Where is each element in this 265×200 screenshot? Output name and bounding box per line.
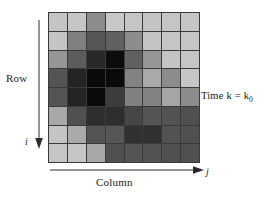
time-annotation: Time k = k0 bbox=[201, 90, 253, 104]
row-direction-arrow bbox=[33, 20, 45, 150]
pixel-cell bbox=[143, 51, 162, 70]
pixel-cell bbox=[49, 107, 68, 126]
pixel-cell bbox=[49, 126, 68, 145]
pixel-cell bbox=[125, 107, 144, 126]
column-direction-arrow bbox=[50, 164, 205, 176]
pixel-cell bbox=[162, 13, 181, 32]
pixel-cell bbox=[181, 88, 200, 107]
pixel-cell bbox=[49, 144, 68, 163]
pixel-cell bbox=[68, 107, 87, 126]
pixel-cell bbox=[49, 32, 68, 51]
row-index-symbol: i bbox=[25, 136, 28, 147]
pixel-cell bbox=[143, 144, 162, 163]
pixel-cell bbox=[181, 107, 200, 126]
pixel-cell bbox=[49, 51, 68, 70]
pixel-cell bbox=[87, 144, 106, 163]
pixel-cell bbox=[87, 32, 106, 51]
pixel-cell bbox=[125, 13, 144, 32]
pixel-cell bbox=[125, 69, 144, 88]
pixel-cell bbox=[49, 13, 68, 32]
pixel-cell bbox=[106, 107, 125, 126]
pixel-cell bbox=[106, 144, 125, 163]
pixel-cell bbox=[106, 88, 125, 107]
pixel-cell bbox=[162, 32, 181, 51]
pixel-cell bbox=[106, 32, 125, 51]
pixel-cell bbox=[125, 32, 144, 51]
pixel-cell bbox=[143, 88, 162, 107]
pixel-cell bbox=[125, 144, 144, 163]
pixel-cell bbox=[68, 69, 87, 88]
pixel-cell bbox=[143, 69, 162, 88]
pixel-cell bbox=[87, 13, 106, 32]
pixel-cell bbox=[125, 51, 144, 70]
pixel-cell bbox=[143, 126, 162, 145]
pixel-cell bbox=[68, 32, 87, 51]
pixel-cell bbox=[181, 126, 200, 145]
pixel-grid bbox=[48, 12, 200, 163]
column-axis-label: Column bbox=[96, 176, 133, 188]
pixel-cell bbox=[68, 13, 87, 32]
pixel-cell bbox=[87, 88, 106, 107]
pixel-cell bbox=[181, 144, 200, 163]
pixel-cell bbox=[143, 13, 162, 32]
pixel-cell bbox=[49, 69, 68, 88]
pixel-cell bbox=[106, 51, 125, 70]
image-grid-figure: Row i Column j Time k = k0 bbox=[0, 0, 265, 200]
pixel-cell bbox=[162, 107, 181, 126]
pixel-cell bbox=[87, 107, 106, 126]
pixel-cell bbox=[87, 69, 106, 88]
pixel-cell bbox=[49, 88, 68, 107]
pixel-cell bbox=[162, 69, 181, 88]
pixel-cell bbox=[106, 69, 125, 88]
pixel-cell bbox=[181, 32, 200, 51]
pixel-grid-container bbox=[48, 12, 200, 163]
pixel-cell bbox=[68, 126, 87, 145]
pixel-cell bbox=[181, 13, 200, 32]
pixel-cell bbox=[106, 13, 125, 32]
column-index-symbol: j bbox=[206, 166, 209, 177]
pixel-cell bbox=[162, 144, 181, 163]
row-axis-label: Row bbox=[6, 72, 27, 84]
pixel-cell bbox=[125, 126, 144, 145]
time-annotation-text: Time k = k bbox=[201, 90, 249, 101]
pixel-cell bbox=[162, 126, 181, 145]
pixel-cell bbox=[106, 126, 125, 145]
pixel-cell bbox=[125, 88, 144, 107]
pixel-cell bbox=[181, 69, 200, 88]
pixel-cell bbox=[68, 51, 87, 70]
time-annotation-subscript: 0 bbox=[249, 95, 253, 104]
pixel-cell bbox=[68, 88, 87, 107]
pixel-cell bbox=[87, 126, 106, 145]
pixel-cell bbox=[143, 107, 162, 126]
pixel-cell bbox=[162, 51, 181, 70]
pixel-cell bbox=[87, 51, 106, 70]
pixel-cell bbox=[68, 144, 87, 163]
pixel-cell bbox=[181, 51, 200, 70]
pixel-cell bbox=[162, 88, 181, 107]
pixel-cell bbox=[143, 32, 162, 51]
